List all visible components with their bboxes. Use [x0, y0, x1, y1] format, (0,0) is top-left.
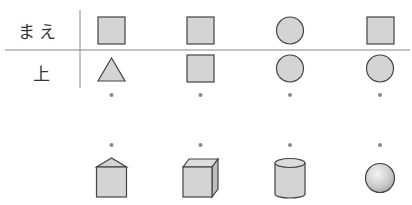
views-diagram: [0, 0, 412, 205]
col3-top-circle-icon: [277, 55, 304, 82]
col2-front-square-icon: [187, 17, 214, 44]
cube-icon: [183, 159, 218, 197]
col4-top-circle-icon: [367, 55, 394, 82]
col1-top-triangle-icon: [98, 58, 125, 81]
col1-front-square-icon: [98, 17, 125, 44]
triangular-prism-icon: [97, 158, 127, 197]
cylinder-icon: [275, 159, 305, 199]
col3-front-circle-icon: [277, 17, 304, 44]
connector-dots: [110, 93, 383, 147]
col2-top-square-icon: [187, 55, 214, 82]
col4-front-square-icon: [367, 17, 394, 44]
sphere-icon: [366, 164, 395, 193]
